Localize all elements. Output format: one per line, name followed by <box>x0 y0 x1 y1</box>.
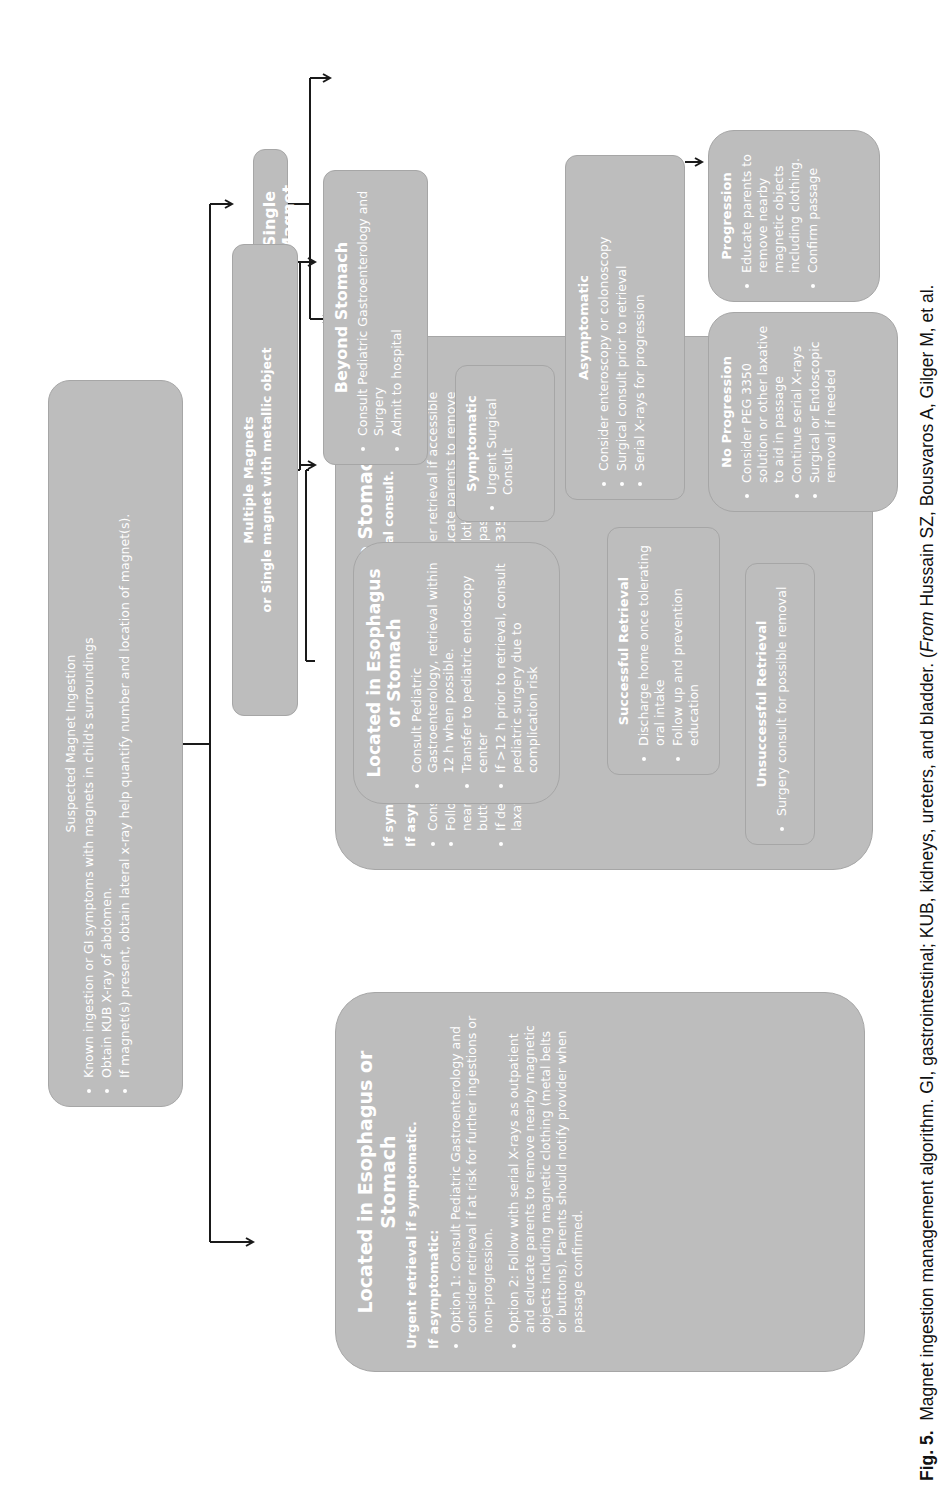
successful-retrieval-box: Successful Retrieval Discharge home once… <box>607 527 720 775</box>
progression-bullets: Educate parents to remove nearby magneti… <box>739 143 821 289</box>
single-esophagus-para2: If asymptomatic: <box>426 1015 442 1349</box>
successful-retrieval-bullet: Discharge home once tolerating oral inta… <box>636 540 668 746</box>
start-bullet: Known ingestion or GI symptoms with magn… <box>81 393 97 1078</box>
figure-caption: Fig. 5. Magnet ingestion management algo… <box>917 11 938 1481</box>
unsuccessful-retrieval-box: Unsuccessful Retrieval Surgery consult f… <box>745 563 815 845</box>
no-progression-title: No Progression <box>719 325 735 499</box>
symptomatic-box: Symptomatic Urgent Surgical Consult <box>455 365 555 522</box>
single-esophagus-bullets: Option 1: Consult Pediatric Gastroentero… <box>448 1015 586 1349</box>
successful-retrieval-bullets: Discharge home once tolerating oral inta… <box>636 540 702 762</box>
multiple-magnets-box: Multiple Magnets or Single magnet with m… <box>232 244 298 716</box>
no-progression-bullets: Consider PEG 3350 solution or other laxa… <box>739 325 839 499</box>
multi-beyond-bullets: Consult Pediatric Gastroenterology and S… <box>355 183 405 452</box>
caption-source: Hussain SZ, Bousvaros A, Gilger M, et al… <box>917 285 937 612</box>
single-esophagus-para1: Urgent retrieval if symptomatic. <box>404 1015 420 1349</box>
caption-from: From <box>917 611 937 652</box>
start-title: Suspected Magnet Ingestion <box>63 393 79 1094</box>
multi-esophagus-title: Located in Esophagus or Stomach <box>364 557 405 789</box>
start-bullet: Obtain KUB X-ray of abdomen. <box>99 393 115 1078</box>
multi-beyond-title: Beyond Stomach <box>332 183 351 452</box>
multi-esophagus-bullet: Consult Pediatric Gastroenterology, retr… <box>409 557 457 773</box>
multi-beyond-bullet: Consult Pediatric Gastroenterology and S… <box>355 183 387 436</box>
multi-beyond-bullet: Admit to hospital <box>389 183 405 436</box>
single-esophagus-box: Located in Esophagus or Stomach Urgent r… <box>335 992 865 1372</box>
start-box: Suspected Magnet Ingestion Known ingesti… <box>48 380 183 1107</box>
progression-box: Progression Educate parents to remove ne… <box>708 130 880 302</box>
single-esophagus-bullet: Option 1: Consult Pediatric Gastroentero… <box>448 1015 496 1333</box>
unsuccessful-retrieval-title: Unsuccessful Retrieval <box>754 576 770 832</box>
symptomatic-title: Symptomatic <box>464 376 480 511</box>
flowchart-canvas: Suspected Magnet Ingestion Known ingesti… <box>0 0 946 1487</box>
progression-title: Progression <box>719 143 735 289</box>
multi-esophagus-box: Located in Esophagus or Stomach Consult … <box>353 542 560 804</box>
multi-esophagus-bullet: If >12 h prior to retrieval, consult ped… <box>493 557 541 773</box>
no-progression-bullet: Consider PEG 3350 solution or other laxa… <box>739 325 787 483</box>
single-esophagus-title: Located in Esophagus or Stomach <box>354 1015 400 1349</box>
no-progression-bullet: Continue serial X-rays <box>789 325 805 483</box>
asymptomatic-bullet: Surgical consult prior to retrieval <box>614 168 630 471</box>
no-progression-bullet: Surgical or Endoscopic removal if needed <box>807 325 839 483</box>
multiple-magnets-subtitle: or Single magnet with metallic object <box>259 255 275 705</box>
successful-retrieval-title: Successful Retrieval <box>616 540 632 762</box>
asymptomatic-bullet: Consider enteroscopy or colonoscopy <box>596 168 612 471</box>
symptomatic-bullet: Urgent Surgical Consult <box>484 376 516 495</box>
asymptomatic-bullets: Consider enteroscopy or colonoscopy Surg… <box>596 168 648 487</box>
unsuccessful-retrieval-bullets: Surgery consult for possible removal <box>774 576 790 832</box>
start-bullet: If magnet(s) present, obtain lateral x-r… <box>117 393 133 1078</box>
multiple-magnets-title: Multiple Magnets <box>241 255 257 705</box>
successful-retrieval-bullet: Follow up and prevention education <box>670 540 702 746</box>
unsuccessful-retrieval-bullet: Surgery consult for possible removal <box>774 576 790 816</box>
start-bullets: Known ingestion or GI symptoms with magn… <box>81 393 133 1094</box>
asymptomatic-bullet: Serial X-rays for progression <box>632 168 648 471</box>
multi-esophagus-bullet: Transfer to pediatric endoscopy center <box>459 557 491 773</box>
progression-bullet: Educate parents to remove nearby magneti… <box>739 143 803 273</box>
multi-beyond-box: Beyond Stomach Consult Pediatric Gastroe… <box>323 170 428 465</box>
asymptomatic-title: Asymptomatic <box>576 168 592 487</box>
asymptomatic-box: Asymptomatic Consider enteroscopy or col… <box>565 155 685 500</box>
caption-label: Fig. 5. <box>917 1430 937 1481</box>
multi-esophagus-bullets: Consult Pediatric Gastroenterology, retr… <box>409 557 541 789</box>
no-progression-box: No Progression Consider PEG 3350 solutio… <box>708 312 898 512</box>
caption-text: Magnet ingestion management algorithm. G… <box>917 652 937 1420</box>
symptomatic-bullets: Urgent Surgical Consult <box>484 376 516 511</box>
single-esophagus-bullet: Option 2: Follow with serial X-rays as o… <box>506 1015 586 1333</box>
progression-bullet: Confirm passage <box>805 143 821 273</box>
